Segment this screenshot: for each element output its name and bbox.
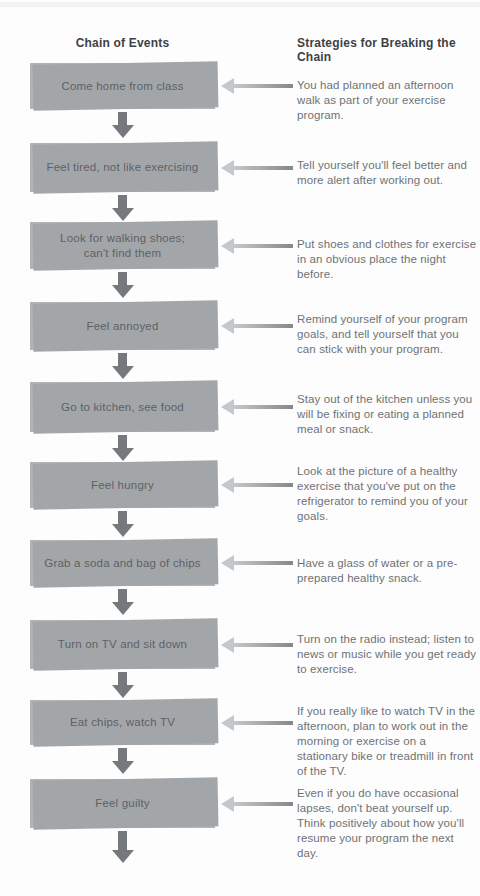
strategy-text: Remind yourself of your program goals, a… [297, 312, 477, 357]
down-arrow-shaft [118, 195, 127, 208]
down-arrow-head [112, 761, 134, 774]
left-arrow-shaft [234, 84, 293, 88]
event-box: Feel hungry [30, 462, 215, 508]
down-arrow-icon [111, 672, 134, 698]
left-arrow-icon [221, 796, 293, 812]
strategy-text: If you really like to watch TV in the af… [297, 704, 477, 779]
left-arrow-icon [221, 477, 293, 493]
left-arrow-icon [221, 78, 293, 94]
left-arrow-head [221, 399, 234, 415]
left-arrow-icon [221, 715, 293, 731]
down-arrow-head [112, 366, 134, 379]
left-arrow-icon [221, 637, 293, 653]
event-box: Feel tired, not like exercising [30, 143, 215, 192]
event-box: Feel annoyed [30, 302, 215, 350]
down-arrow-head [112, 602, 134, 615]
down-arrow-shaft [118, 748, 127, 761]
event-label: Grab a soda and bag of chips [36, 556, 208, 571]
down-arrow-head [112, 285, 134, 298]
down-arrow-icon [111, 272, 134, 298]
event-label: Turn on TV and sit down [50, 637, 195, 652]
down-arrow-icon [111, 195, 134, 221]
event-label: Eat chips, watch TV [62, 715, 183, 730]
down-arrow-shaft [118, 831, 127, 850]
strategy-text: Stay out of the kitchen unless you will … [297, 392, 477, 437]
down-arrow-head [112, 208, 134, 221]
strategy-text: Put shoes and clothes for exercise in an… [297, 237, 477, 282]
left-arrow-icon [221, 318, 293, 334]
page: { "diagram": { "left_header": "Chain of … [0, 0, 480, 896]
down-arrow-shaft [118, 672, 127, 685]
left-arrow-head [221, 318, 234, 334]
down-arrow-head [112, 125, 134, 138]
down-arrow-icon [111, 353, 134, 379]
left-arrow-head [221, 78, 234, 94]
left-arrow-shaft [234, 721, 293, 725]
event-box: Come home from class [30, 63, 215, 109]
event-box: Look for walking shoes; can't find them [30, 222, 215, 269]
event-box: Go to kitchen, see food [30, 382, 215, 432]
left-arrow-head [221, 160, 234, 176]
down-arrow-icon [111, 589, 134, 615]
event-label: Feel annoyed [78, 319, 166, 334]
down-arrow-icon [111, 748, 134, 774]
event-box: Turn on TV and sit down [30, 620, 215, 669]
down-arrow-icon [111, 435, 134, 461]
left-arrow-head [221, 555, 234, 571]
left-arrow-head [221, 477, 234, 493]
left-arrow-shaft [234, 643, 293, 647]
strategy-text: Even if you do have occasional lapses, d… [297, 786, 477, 861]
down-arrow-shaft [118, 353, 127, 366]
left-arrow-icon [221, 238, 293, 254]
left-arrow-shaft [234, 324, 293, 328]
left-arrow-icon [221, 160, 293, 176]
down-arrow-shaft [118, 511, 127, 524]
event-label: Feel tired, not like exercising [39, 160, 207, 175]
down-arrow-head [112, 524, 134, 537]
left-arrow-shaft [234, 244, 293, 248]
left-arrow-shaft [234, 802, 293, 806]
strategy-text: Turn on the radio instead; listen to new… [297, 632, 477, 677]
left-arrow-head [221, 715, 234, 731]
event-label: Feel guilty [87, 796, 158, 811]
strategy-text: Have a glass of water or a pre-prepared … [297, 556, 477, 586]
left-arrow-shaft [234, 405, 293, 409]
strategy-text: Tell yourself you'll feel better and mor… [297, 158, 477, 188]
left-arrow-shaft [234, 561, 293, 565]
event-label: Go to kitchen, see food [53, 400, 192, 415]
left-arrow-icon [221, 399, 293, 415]
event-label: Feel hungry [83, 478, 162, 493]
left-arrow-shaft [234, 166, 293, 170]
down-arrow-head [112, 448, 134, 461]
down-arrow-icon [111, 112, 134, 138]
event-label: Look for walking shoes; can't find them [52, 231, 193, 261]
down-arrow-shaft [118, 112, 127, 125]
down-arrow-head [112, 850, 134, 863]
scan-artifact [0, 2, 480, 7]
down-arrow-shaft [118, 272, 127, 285]
strategy-text: Look at the picture of a healthy exercis… [297, 464, 477, 524]
left-arrow-icon [221, 555, 293, 571]
event-box: Eat chips, watch TV [30, 700, 215, 745]
left-arrow-shaft [234, 483, 293, 487]
event-box: Feel guilty [30, 779, 215, 828]
strategies-heading: Strategies for Breaking the Chain [297, 36, 477, 64]
down-arrow-shaft [118, 435, 127, 448]
down-arrow-icon [111, 511, 134, 537]
down-arrow-shaft [118, 589, 127, 602]
down-arrow-icon [111, 831, 134, 863]
event-label: Come home from class [53, 79, 191, 94]
strategy-text: You had planned an afternoon walk as par… [297, 78, 477, 123]
flowchart-canvas: Chain of Events Strategies for Breaking … [0, 0, 480, 896]
left-arrow-head [221, 796, 234, 812]
event-box: Grab a soda and bag of chips [30, 540, 215, 586]
left-arrow-head [221, 238, 234, 254]
chain-of-events-heading: Chain of Events [30, 36, 215, 50]
left-arrow-head [221, 637, 234, 653]
down-arrow-head [112, 685, 134, 698]
